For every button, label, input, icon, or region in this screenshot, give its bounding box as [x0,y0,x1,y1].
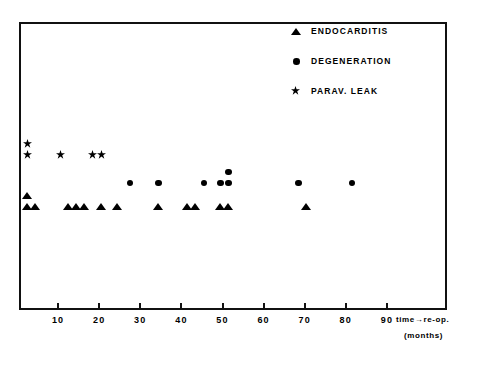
x-axis-units: (months) [404,331,443,340]
x-tick-label-90: 90 [381,315,393,325]
x-tick-label-50: 50 [216,315,228,325]
data-point-triangle [153,203,163,210]
data-point-star [56,150,65,159]
x-tick-label-30: 30 [134,315,146,325]
x-tick-label-60: 60 [257,315,269,325]
x-tick-10 [57,303,59,310]
data-point-circle [127,180,134,187]
data-point-circle [349,180,356,187]
data-point-circle [225,169,232,176]
data-point-triangle [79,203,89,210]
x-tick-80 [345,303,347,310]
x-tick-label-20: 20 [93,315,105,325]
x-tick-20 [98,303,100,310]
x-axis-title: time→re-op. [396,315,449,324]
x-tick-label-80: 80 [340,315,352,325]
data-point-circle [295,180,302,187]
data-point-triangle [223,203,233,210]
x-tick-30 [139,303,141,310]
data-point-star [97,150,106,159]
data-point-triangle [301,203,311,210]
legend-item-parav-leak: PARAV. LEAK [290,84,378,98]
figure: ENDOCARDITIS DEGENERATION PARAV. LEAK 10… [0,0,477,369]
x-tick-label-10: 10 [52,315,64,325]
legend-item-degeneration: DEGENERATION [290,54,391,68]
data-point-circle [201,180,208,187]
data-point-triangle [22,192,32,199]
x-tick-70 [304,303,306,310]
x-tick-label-70: 70 [298,315,310,325]
data-point-circle [217,180,224,187]
data-point-circle [225,180,232,187]
x-tick-50 [222,303,224,310]
circle-icon [290,54,304,68]
data-point-star [23,139,32,148]
triangle-icon [290,24,304,38]
data-point-triangle [30,203,40,210]
data-point-star [23,150,32,159]
x-tick-label-40: 40 [175,315,187,325]
legend-item-endocarditis: ENDOCARDITIS [290,24,388,38]
legend-label-endocarditis: ENDOCARDITIS [311,26,388,36]
x-tick-40 [180,303,182,310]
data-point-triangle [190,203,200,210]
x-tick-60 [263,303,265,310]
legend-label-degeneration: DEGENERATION [311,56,391,66]
data-point-circle [155,180,162,187]
data-point-triangle [112,203,122,210]
x-tick-90 [386,303,388,310]
legend-label-parav-leak: PARAV. LEAK [311,86,378,96]
data-point-triangle [96,203,106,210]
star-icon [290,84,304,98]
